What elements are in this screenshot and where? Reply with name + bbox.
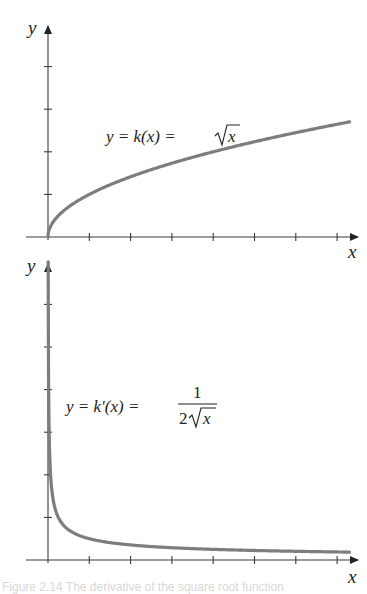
bottom-chart: y x y = k′(x) = 1 2 x (25, 255, 358, 587)
bottom-equation-radicand: x (202, 409, 211, 428)
bottom-equation: y = k′(x) = 1 2 x (64, 383, 217, 428)
top-equation: y = k(x) = x (104, 125, 240, 146)
bottom-x-label: x (347, 566, 357, 587)
top-equation-radicand: x (227, 127, 236, 146)
top-y-label: y (26, 17, 37, 38)
sqrt-curve (48, 122, 349, 237)
figure-caption: Figure 2.14 The derivative of the square… (2, 580, 284, 594)
bottom-equation-numerator: 1 (193, 383, 202, 402)
bottom-equation-den-coef: 2 (179, 409, 188, 428)
top-x-label: x (347, 241, 357, 262)
top-equation-lhs: y = k(x) = (104, 127, 176, 146)
bottom-equation-lhs: y = k′(x) = (64, 397, 139, 416)
top-chart: y x y = k(x) = x (26, 17, 358, 262)
bottom-y-label: y (25, 255, 36, 276)
